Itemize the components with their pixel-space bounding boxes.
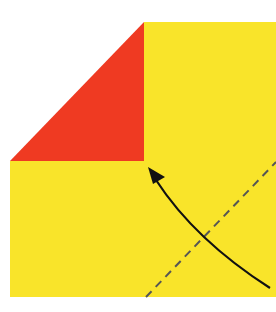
folded-corner-triangle (10, 22, 144, 161)
origami-diagram (0, 0, 276, 312)
